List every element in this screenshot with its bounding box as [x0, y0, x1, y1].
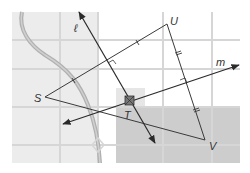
label-l: ℓ	[73, 22, 78, 34]
label-m: m	[216, 56, 225, 68]
point-t-marker	[125, 96, 134, 105]
label-s: S	[34, 92, 42, 104]
geometry-diagram: S U V T ℓ m	[0, 0, 250, 173]
map-background	[12, 12, 240, 163]
label-u: U	[170, 15, 178, 27]
